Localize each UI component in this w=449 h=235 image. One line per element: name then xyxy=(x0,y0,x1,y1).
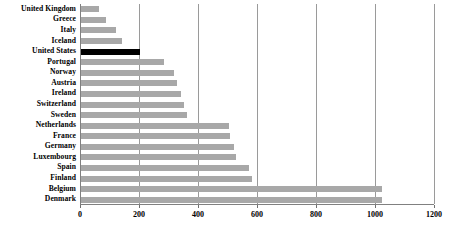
category-label: Sweden xyxy=(51,111,76,119)
category-label: Austria xyxy=(51,79,76,87)
bar xyxy=(81,123,229,129)
gridline xyxy=(375,4,376,204)
x-tick-mark xyxy=(375,205,376,208)
category-label: France xyxy=(53,132,76,140)
x-tick-mark xyxy=(80,205,81,208)
bar xyxy=(81,27,116,33)
category-label: Netherlands xyxy=(36,121,76,129)
category-label: Luxembourg xyxy=(33,153,76,161)
category-label: Spain xyxy=(57,163,76,171)
category-label: United Kingdom xyxy=(21,5,76,13)
x-tick-label: 800 xyxy=(310,210,322,219)
bar xyxy=(81,80,177,86)
x-tick-mark xyxy=(139,205,140,208)
category-label: Norway xyxy=(50,68,76,76)
bar xyxy=(81,59,164,65)
gridline xyxy=(198,4,199,204)
category-label: Portugal xyxy=(47,58,76,66)
category-axis-labels: United KingdomGreeceItalyIcelandUnited S… xyxy=(0,4,79,205)
category-label: United States xyxy=(32,47,76,55)
x-tick-label: 200 xyxy=(133,210,145,219)
bar xyxy=(81,49,140,55)
bar xyxy=(81,144,234,150)
x-tick-label: 1200 xyxy=(426,210,442,219)
bar xyxy=(81,38,122,44)
bar xyxy=(81,112,187,118)
category-label: Italy xyxy=(61,26,76,34)
x-tick-label: 400 xyxy=(192,210,204,219)
bar xyxy=(81,133,230,139)
x-tick-mark xyxy=(316,205,317,208)
bar xyxy=(81,154,236,160)
bar xyxy=(81,165,249,171)
bar xyxy=(81,186,382,192)
bar-chart: United KingdomGreeceItalyIcelandUnited S… xyxy=(0,0,449,235)
x-tick-mark xyxy=(257,205,258,208)
category-label: Finland xyxy=(50,174,76,182)
bar xyxy=(81,176,252,182)
plot-area xyxy=(80,4,434,205)
category-label: Greece xyxy=(53,15,76,23)
category-label: Iceland xyxy=(52,37,76,45)
category-label: Belgium xyxy=(49,185,76,193)
category-label: Germany xyxy=(45,142,76,150)
gridline xyxy=(257,4,258,204)
category-label: Switzerland xyxy=(37,100,76,108)
x-tick-label: 0 xyxy=(78,210,82,219)
gridline xyxy=(434,4,435,204)
bar xyxy=(81,6,99,12)
bar xyxy=(81,70,174,76)
x-tick-mark xyxy=(434,205,435,208)
gridline xyxy=(316,4,317,204)
bar xyxy=(81,91,181,97)
bar xyxy=(81,102,184,108)
bar xyxy=(81,17,106,23)
x-tick-mark xyxy=(198,205,199,208)
category-label: Ireland xyxy=(52,89,76,97)
x-tick-label: 1000 xyxy=(367,210,383,219)
category-label: Denmark xyxy=(45,195,76,203)
x-tick-label: 600 xyxy=(251,210,263,219)
bar xyxy=(81,197,382,203)
